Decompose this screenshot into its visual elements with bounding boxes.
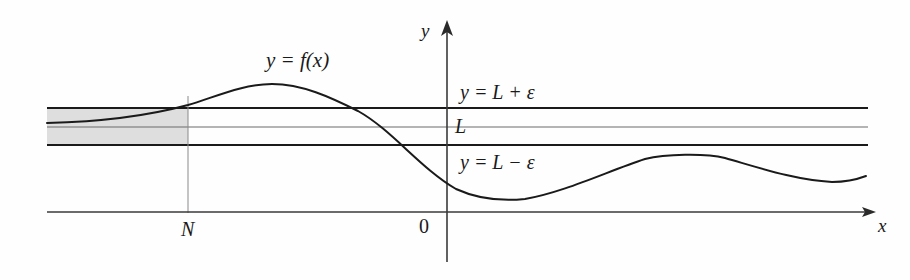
n-axis-label-text: N: [181, 218, 194, 240]
x-axis-label-text: x: [878, 215, 886, 236]
upper-epsilon-label-text: y = L + ε: [460, 81, 535, 103]
y-axis-label-text: y: [421, 20, 429, 41]
origin-label-text: 0: [419, 215, 429, 237]
lower-epsilon-label: y = L − ε: [460, 152, 535, 172]
curve-label-text: y = f(x): [266, 48, 329, 72]
y-axis-label: y: [421, 21, 429, 40]
lower-epsilon-label-text: y = L − ε: [460, 151, 535, 173]
limit-label: L: [455, 116, 466, 136]
limit-label-text: L: [455, 115, 466, 137]
n-axis-label: N: [181, 219, 194, 239]
upper-epsilon-label: y = L + ε: [460, 82, 535, 102]
limit-at-infinity-figure: y = f(x) y = L + ε L y = L − ε N 0 y x: [0, 0, 910, 280]
x-axis-label: x: [878, 216, 886, 235]
origin-label: 0: [419, 216, 429, 236]
curve-label: y = f(x): [266, 50, 329, 71]
figure-canvas: [0, 0, 910, 280]
